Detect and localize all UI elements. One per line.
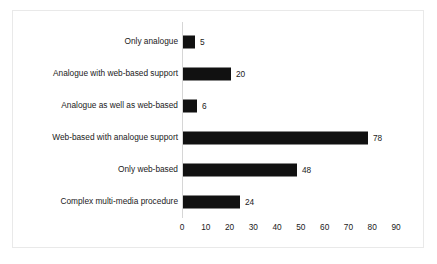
x-tick-label: 40 <box>272 222 281 232</box>
x-axis-tick-labels: 0 10 20 30 40 50 60 70 80 90 <box>0 222 437 238</box>
bar-row: Only analogue 5 <box>0 26 437 58</box>
bar-value-label: 6 <box>202 101 207 111</box>
x-tick-label: 70 <box>344 222 353 232</box>
bar-chart-figure: Only analogue 5 Analogue with web-based … <box>0 0 437 264</box>
x-tick-label: 10 <box>201 222 210 232</box>
x-tick-label: 80 <box>368 222 377 232</box>
x-tick-label: 60 <box>320 222 329 232</box>
bar-analogue-as-well-as-web-based <box>183 100 197 113</box>
bar-analogue-with-web-based-support <box>183 68 231 81</box>
bar-web-based-with-analogue-support <box>183 132 368 145</box>
bar-row: Complex multi-media procedure 24 <box>0 186 437 218</box>
x-tick-label: 20 <box>225 222 234 232</box>
bar-value-label: 5 <box>200 37 205 47</box>
bar-complex-multi-media-procedure <box>183 196 240 209</box>
bar-only-analogue <box>183 36 195 49</box>
x-tick-label: 90 <box>391 222 400 232</box>
bar-value-label: 20 <box>236 69 245 79</box>
bar-only-web-based <box>183 164 297 177</box>
category-label: Analogue with web-based support <box>53 69 178 78</box>
bar-value-label: 24 <box>245 197 254 207</box>
category-label: Only web-based <box>118 165 178 174</box>
plot-area: Only analogue 5 Analogue with web-based … <box>0 0 437 264</box>
bar-row: Web-based with analogue support 78 <box>0 122 437 154</box>
bar-row: Only web-based 48 <box>0 154 437 186</box>
x-tick-label: 30 <box>249 222 258 232</box>
bar-value-label: 48 <box>302 165 311 175</box>
x-tick-label: 0 <box>180 222 185 232</box>
category-label: Only analogue <box>124 37 178 46</box>
x-tick-label: 50 <box>296 222 305 232</box>
bar-value-label: 78 <box>373 133 382 143</box>
bar-row: Analogue as well as web-based 6 <box>0 90 437 122</box>
bar-row: Analogue with web-based support 20 <box>0 58 437 90</box>
category-label: Analogue as well as web-based <box>61 101 178 110</box>
category-label: Complex multi-media procedure <box>60 197 178 206</box>
category-label: Web-based with analogue support <box>52 133 178 142</box>
